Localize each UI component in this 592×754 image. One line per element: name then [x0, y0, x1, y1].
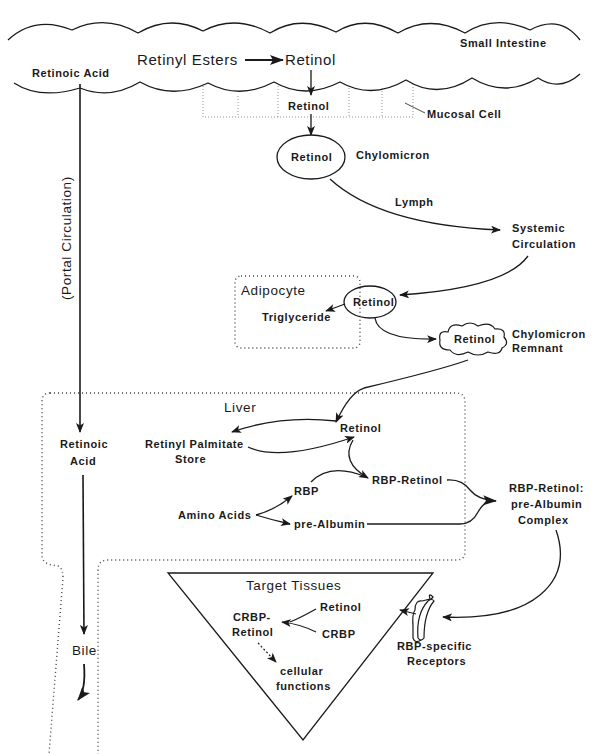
chylomicron-label: Chylomicron [356, 149, 430, 161]
target-tissues-label: Target Tissues [246, 578, 341, 593]
remnant-retinol: Retinol [454, 333, 495, 345]
retinol-metabolism-diagram: Small Intestine Retinoic Acid Retinyl Es… [0, 0, 592, 754]
mucosal-retinol-label: Retinol [288, 100, 329, 112]
receptors-line1: RBP-specific [397, 640, 472, 652]
cellular-line2: functions [276, 680, 331, 692]
portal-circulation-label: (Portal Circulation) [59, 176, 74, 300]
liver-retinoic-line1: Retinoic [60, 438, 108, 450]
crbp-retinol-line1: CRBP- [233, 611, 271, 623]
remnant-line1: Chylomicron [512, 328, 586, 340]
triglyceride-label: Triglyceride [262, 311, 331, 323]
complex-line3: Complex [518, 514, 569, 526]
retinol-to-palmitate-arrow [232, 419, 336, 432]
systemic-to-adipocyte-arrow [400, 256, 528, 295]
complex-to-receptors-arrow [443, 530, 560, 617]
adipocyte-to-remnant-arrow [375, 318, 436, 339]
chylomicron-retinol: Retinol [291, 151, 332, 163]
retinoic-acid-intestine: Retinoic Acid [32, 67, 110, 79]
amino-acids-label: Amino Acids [178, 509, 251, 521]
target-tissues-triangle [168, 573, 433, 740]
retinol-to-triglyceride-arrow [326, 304, 345, 311]
adipocyte-retinol: Retinol [353, 296, 394, 308]
liver-retinoic-line2: Acid [70, 455, 96, 467]
palmitate-line2: Store [175, 453, 206, 465]
bile-label: Bile [72, 643, 97, 658]
small-intestine-label: Small Intestine [460, 37, 547, 49]
bile-out-arrow [78, 664, 84, 700]
receptors-line2: Receptors [407, 655, 466, 667]
prealbumin-label: pre-Albumin [294, 518, 365, 530]
target-crbp: CRBP [322, 628, 356, 640]
liver-retinol: Retinol [340, 422, 381, 434]
retinyl-esters-label: Retinyl Esters [137, 51, 238, 68]
prealbumin-to-complex-line [367, 501, 490, 524]
adipocyte-label: Adipocyte [241, 283, 306, 298]
crbp-to-crbp-retinol-arrow [282, 622, 316, 632]
crbp-to-cellular-dashed-arrow [258, 643, 276, 662]
mucosal-cell-label: Mucosal Cell [427, 108, 501, 120]
rbp-label: RBP [294, 485, 319, 497]
retinol-intestine-label: Retinol [285, 51, 336, 68]
remnant-to-liver-arrow [336, 360, 468, 422]
target-retinol: Retinol [320, 601, 361, 613]
rbp-retinol-label: RBP-Retinol [372, 474, 443, 486]
liver-label: Liver [224, 400, 256, 415]
rbp-retinol-to-complex-line [447, 480, 496, 501]
palmitate-to-retinol-arrow [248, 437, 354, 453]
crbp-retinol-line2: Retinol [232, 626, 273, 638]
palmitate-line1: Retinyl Palmitate [145, 438, 244, 450]
systemic-line1: Systemic [512, 222, 565, 234]
amino-to-prealbumin-arrow [256, 515, 290, 524]
systemic-line2: Circulation [512, 238, 576, 250]
complex-line2: pre-Albumin [511, 498, 582, 510]
rbp-to-rbp-retinol-line [311, 471, 366, 482]
retinol-to-crbp-retinol-line [290, 609, 316, 622]
cellular-line1: cellular [280, 665, 323, 677]
retinoic-to-bile-arrow [83, 475, 84, 634]
lymph-label: Lymph [395, 196, 434, 208]
remnant-line2: Remnant [512, 342, 563, 354]
amino-to-rbp-arrow [256, 496, 292, 515]
complex-line1: RBP-Retinol: [509, 482, 584, 494]
